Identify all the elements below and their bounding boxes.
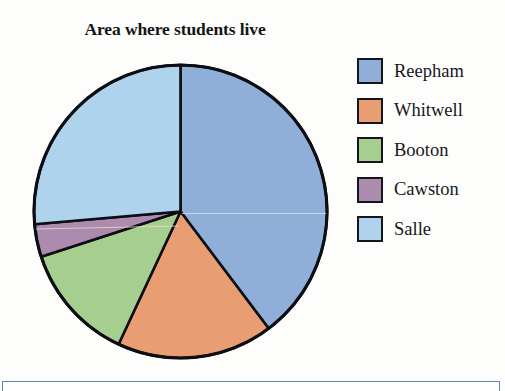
legend-swatch-cawston [357, 177, 383, 203]
legend-label-booton: Booton [394, 141, 448, 160]
legend-item-whitwell[interactable]: Whitwell [357, 96, 505, 126]
legend-label-reepham: Reepham [394, 62, 464, 81]
legend-item-reepham[interactable]: Reepham [357, 56, 505, 86]
pie-slice-salle[interactable] [34, 65, 180, 224]
legend-item-salle[interactable]: Salle [357, 214, 505, 244]
pie-chart [0, 0, 360, 391]
legend-label-cawston: Cawston [394, 180, 459, 199]
legend-item-booton[interactable]: Booton [357, 135, 505, 165]
pie-chart-svg [0, 0, 360, 391]
legend-swatch-booton [357, 137, 383, 163]
legend-swatch-whitwell [357, 98, 383, 124]
legend-swatch-salle [357, 216, 383, 242]
legend-swatch-reepham [357, 58, 383, 84]
legend: Reepham Whitwell Booton Cawston Salle [357, 56, 505, 254]
legend-label-whitwell: Whitwell [394, 101, 463, 120]
legend-item-cawston[interactable]: Cawston [357, 175, 505, 205]
legend-label-salle: Salle [394, 220, 431, 239]
page-box-border [2, 381, 500, 391]
